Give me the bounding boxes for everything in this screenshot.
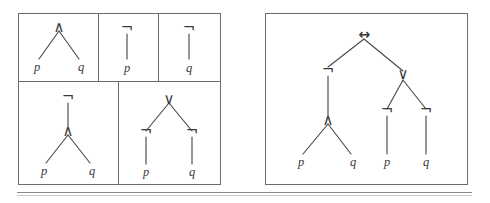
leaf-p: p bbox=[41, 165, 47, 178]
leaf-q-right: q bbox=[423, 156, 429, 169]
node-operator-and: ∧ bbox=[323, 113, 334, 128]
node-operator-not-right-p: ¬ bbox=[381, 103, 394, 118]
leaf-q: q bbox=[89, 165, 95, 178]
node-operator-not-right-q: ¬ bbox=[420, 103, 433, 118]
leaf-q-left: q bbox=[350, 156, 356, 169]
node-operator-not: ¬ bbox=[121, 21, 134, 36]
node-operator-not: ¬ bbox=[183, 21, 196, 36]
cell-negation-q: ¬ q bbox=[158, 14, 220, 81]
node-operator-or: ∨ bbox=[164, 92, 175, 107]
node-operator-and: ∧ bbox=[63, 124, 74, 139]
page-horizontal-rule bbox=[17, 192, 472, 193]
cell-negated-conjunction: ¬ ∧ p q bbox=[19, 81, 118, 184]
cell-conjunction: ∧ p q bbox=[19, 14, 98, 81]
node-operator-and: ∧ bbox=[54, 20, 65, 35]
leaf-p: p bbox=[34, 61, 40, 74]
leaf-q: q bbox=[189, 166, 195, 179]
leaf-q: q bbox=[186, 62, 192, 75]
leaf-q: q bbox=[78, 61, 84, 74]
node-operator-not: ¬ bbox=[62, 90, 75, 105]
component-trees-panel: ∧ p q ¬ p ¬ q ¬ ∧ bbox=[18, 13, 221, 185]
page-horizontal-rule-shadow bbox=[17, 195, 472, 196]
node-operator-biconditional: ↔ bbox=[358, 27, 369, 41]
leaf-p: p bbox=[124, 62, 130, 75]
logic-syntax-tree-figure: ∧ p q ¬ p ¬ q ¬ ∧ bbox=[0, 0, 490, 203]
leaf-p: p bbox=[143, 166, 149, 179]
cell-disjunction-of-negations: ∨ ¬ ¬ p q bbox=[118, 81, 220, 184]
node-operator-not-left-subtree: ¬ bbox=[322, 63, 335, 78]
leaf-p-left: p bbox=[298, 156, 304, 169]
cell-negation-p: ¬ p bbox=[98, 14, 158, 81]
node-operator-not-left: ¬ bbox=[140, 124, 153, 139]
leaf-p-right: p bbox=[384, 156, 390, 169]
node-operator-or: ∨ bbox=[398, 67, 409, 82]
full-tree-panel: ↔ ¬ ∧ p q ∨ ¬ ¬ p q bbox=[265, 13, 468, 185]
node-operator-not-right: ¬ bbox=[186, 124, 199, 139]
